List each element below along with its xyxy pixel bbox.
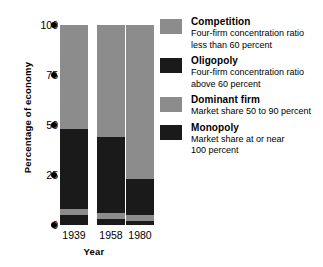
bar-segment-oligopoly-1980[interactable]	[126, 179, 154, 215]
legend-desc-dominant-firm-line1: Market share 50 to 90 percent	[191, 106, 323, 118]
legend-swatch-competition	[160, 19, 182, 34]
legend-desc-competition-line2: less than 60 percent	[191, 40, 323, 52]
plot-area	[0, 0, 170, 267]
legend-title-dominant-firm: Dominant firm	[191, 94, 323, 106]
bar-segment-monopoly-1958[interactable]	[97, 219, 125, 225]
legend-desc-oligopoly-line1: Four-firm concentration ratio	[191, 67, 323, 79]
x-axis-label: Year	[60, 246, 128, 257]
bar-segment-dominant-firm-1958[interactable]	[97, 213, 125, 219]
bar-segment-oligopoly-1939[interactable]	[60, 129, 88, 209]
bar-segment-competition-1980[interactable]	[126, 25, 154, 179]
legend-title-monopoly: Monopoly	[191, 122, 323, 134]
legend-item-monopoly[interactable]: Monopoly Market share at or near 100 per…	[160, 122, 323, 157]
bar-segment-competition-1939[interactable]	[60, 25, 88, 129]
chart-legend: Competition Four-firm concentration rati…	[160, 16, 323, 161]
bar-segment-oligopoly-1958[interactable]	[97, 137, 125, 213]
chart-figure: Percentage of economy 100 75 50 25 0 193…	[0, 0, 323, 267]
legend-swatch-oligopoly	[160, 58, 182, 73]
bar-segment-dominant-firm-1980[interactable]	[126, 215, 154, 221]
legend-title-oligopoly: Oligopoly	[191, 55, 323, 67]
legend-item-dominant-firm[interactable]: Dominant firm Market share 50 to 90 perc…	[160, 94, 323, 118]
legend-swatch-monopoly	[160, 125, 182, 140]
legend-desc-monopoly-line1: Market share at or near	[191, 134, 323, 146]
bar-segment-dominant-firm-1939[interactable]	[60, 209, 88, 215]
x-tick-label-1980: 1980	[120, 229, 160, 241]
bar-1958[interactable]	[97, 25, 125, 225]
bar-1939[interactable]	[60, 25, 88, 225]
legend-desc-monopoly-line2: 100 percent	[191, 145, 323, 157]
x-tick-label-1939: 1939	[54, 229, 94, 241]
legend-title-competition: Competition	[191, 16, 323, 28]
bar-1980[interactable]	[126, 25, 154, 225]
legend-item-oligopoly[interactable]: Oligopoly Four-firm concentration ratio …	[160, 55, 323, 90]
legend-desc-oligopoly-line2: above 60 percent	[191, 79, 323, 91]
bar-segment-monopoly-1980[interactable]	[126, 221, 154, 225]
legend-swatch-dominant-firm	[160, 97, 182, 112]
legend-item-competition[interactable]: Competition Four-firm concentration rati…	[160, 16, 323, 51]
legend-desc-competition-line1: Four-firm concentration ratio	[191, 28, 323, 40]
bar-segment-monopoly-1939[interactable]	[60, 215, 88, 225]
bar-segment-competition-1958[interactable]	[97, 25, 125, 137]
